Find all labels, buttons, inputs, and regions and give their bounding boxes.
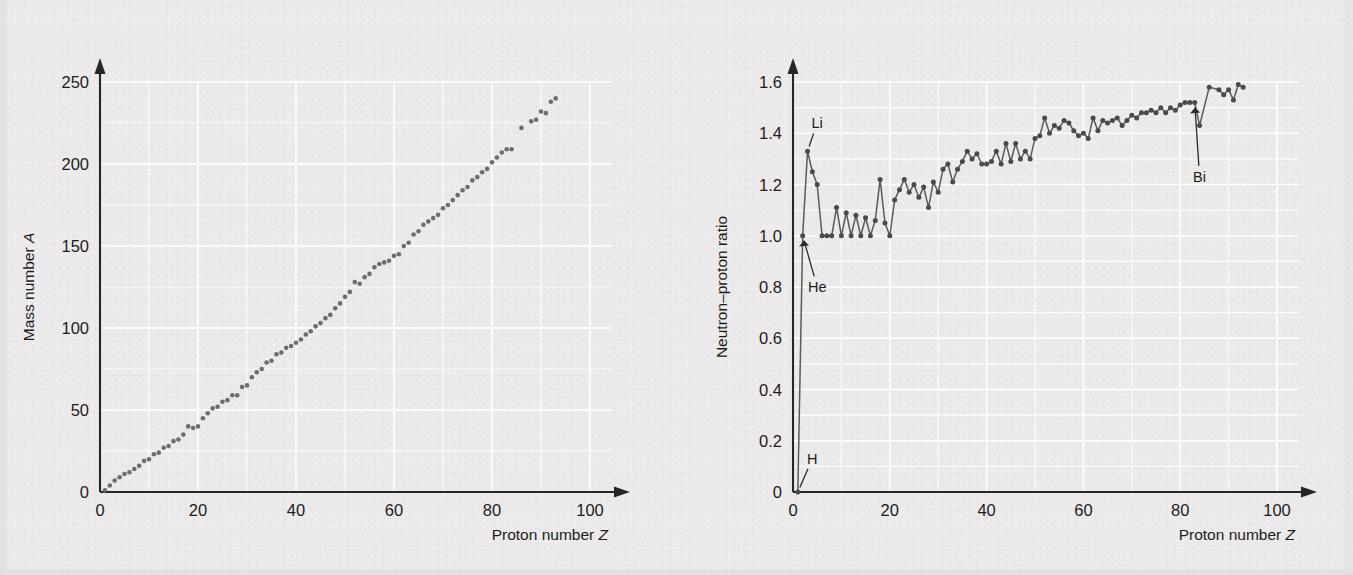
annotation-leader-line [804,241,814,277]
data-point [1144,110,1149,115]
x-tick-label: 20 [881,501,899,519]
data-point [887,233,892,238]
axes-group [95,58,631,498]
data-point [215,404,220,409]
tick-labels-group: 02040608010000.20.40.60.81.01.21.41.6 [759,73,1291,519]
data-points-group [103,96,558,493]
data-point [210,406,215,411]
data-point [357,281,362,286]
data-point [436,213,441,218]
annotation-label: He [808,279,827,295]
data-point [191,426,196,431]
data-point [916,195,921,200]
data-point [485,167,490,172]
data-point [171,439,176,444]
x-tick-label: 20 [189,501,207,519]
data-point [338,301,343,306]
data-point [328,313,333,318]
data-point [1086,136,1091,141]
data-point [137,463,142,468]
annotation-label: Bi [1193,169,1206,185]
data-point [1047,131,1052,136]
data-point [240,385,245,390]
data-point [299,337,304,342]
gridlines-group [100,82,612,492]
data-point [313,324,318,329]
data-point [460,188,465,193]
data-point [480,170,485,175]
x-tick-label: 40 [977,501,995,519]
data-point [950,179,955,184]
data-point [470,178,475,183]
annotation-leader-line [809,133,813,146]
data-point [945,162,950,167]
data-point [475,175,480,180]
data-point [230,393,235,398]
data-point [858,233,863,238]
data-point [353,280,358,285]
data-point [274,352,279,357]
data-markers-group [795,82,1245,494]
data-point [318,321,323,326]
data-point [1197,123,1202,128]
y-tick-label: 100 [61,319,89,337]
data-point [367,272,372,277]
x-axis-title: Proton number Z [1179,526,1296,543]
data-point [431,216,436,221]
data-series-line [798,85,1243,492]
y-tick-label: 1.4 [759,124,782,142]
data-point [805,149,810,154]
data-point [1095,128,1100,133]
data-point [495,155,500,160]
data-point [1241,85,1246,90]
x-axis-arrow-icon [614,487,630,498]
data-point [829,233,834,238]
data-point [142,459,147,464]
data-point [181,432,186,437]
data-point [308,329,313,334]
data-point [108,483,113,488]
data-point [839,233,844,238]
data-point [1052,123,1057,128]
data-point [284,345,289,350]
data-point [1062,118,1067,123]
data-point [264,360,269,365]
x-tick-label: 60 [385,501,403,519]
y-tick-label: 150 [61,237,89,255]
data-point [377,262,382,267]
data-point [500,150,505,155]
data-point [451,198,456,203]
data-point [824,233,829,238]
data-point [157,450,162,455]
data-point [994,149,999,154]
annotation-leader-line [800,469,808,488]
data-point [795,490,800,495]
data-point [1158,105,1163,110]
data-point [1013,141,1018,146]
data-point [196,424,201,429]
data-point [907,190,912,195]
data-point [974,151,979,156]
data-point [1100,118,1105,123]
data-point [103,488,108,493]
data-point [1076,133,1081,138]
data-point [902,177,907,182]
data-point [878,177,883,182]
data-point [1115,115,1120,120]
data-point [984,162,989,167]
data-point [1033,136,1038,141]
data-point [382,260,387,265]
data-point [1028,156,1033,161]
y-tick-label: 0.8 [759,278,782,296]
x-axis-title: Proton number Z [492,526,609,543]
data-point [549,99,554,104]
data-point [979,162,984,167]
data-point [147,457,152,462]
data-point [834,205,839,210]
data-point [873,218,878,223]
data-point [220,400,225,405]
data-point [1081,131,1086,136]
y-tick-label: 1.2 [759,176,782,194]
data-point [519,126,524,131]
annotation-arrow-icon [1190,107,1200,113]
